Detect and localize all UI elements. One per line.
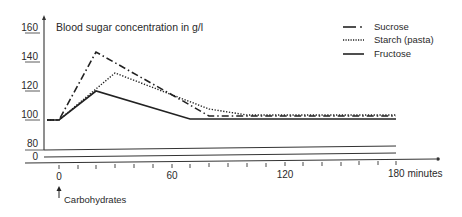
x-tick-180: 180 minutes (388, 168, 442, 179)
axis-break-line-80 (44, 146, 396, 150)
y-axis-arrow-icon (42, 15, 46, 20)
y-ticks: 160 140 120 100 80 0 (21, 22, 44, 162)
y-tick-80: 80 (27, 138, 39, 149)
y-tick-140: 140 (21, 51, 38, 62)
x-axis-arrow-icon (436, 157, 440, 161)
y-tick-0: 0 (32, 151, 38, 162)
blood-sugar-chart: 160 140 120 100 80 0 (0, 0, 462, 217)
y-tick-100: 100 (21, 109, 38, 120)
x-tick-0: 0 (56, 171, 62, 182)
legend-fructose: Fructose (374, 48, 411, 59)
legend-sucrose: Sucrose (374, 21, 409, 32)
y-tick-160: 160 (21, 22, 38, 33)
x-tick-120: 120 (277, 169, 294, 180)
up-arrow-icon (57, 186, 62, 191)
carbohydrates-label: Carbohydrates (64, 194, 127, 205)
axis-break-line-0 (44, 153, 396, 157)
chart-title: Blood sugar concentration in g/l (56, 21, 203, 33)
legend: Sucrose Starch (pasta) Fructose (343, 21, 434, 59)
legend-starch: Starch (pasta) (374, 34, 434, 45)
series-starch (47, 73, 396, 120)
y-tick-120: 120 (21, 80, 38, 91)
x-tick-60: 60 (166, 170, 178, 181)
x-axis (25, 159, 436, 163)
